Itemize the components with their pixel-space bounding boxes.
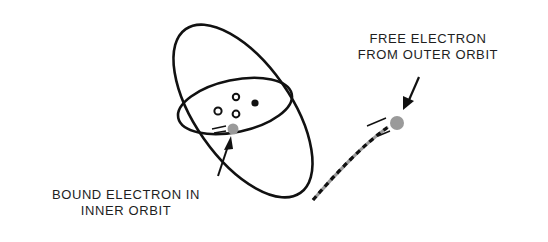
nucleus-particle	[251, 99, 258, 106]
bound-electron-label-line2: INNER ORBIT	[26, 203, 226, 219]
nucleus-particle	[214, 107, 221, 114]
free-electron-label: FREE ELECTRON FROM OUTER ORBIT	[338, 31, 518, 63]
free-electron-trajectory	[313, 127, 388, 200]
free-electron-label-line2: FROM OUTER ORBIT	[338, 47, 518, 63]
free-electron-arrow-icon	[403, 77, 419, 110]
nucleus	[214, 94, 258, 118]
free-electron-label-line1: FREE ELECTRON	[338, 31, 518, 47]
atom-diagram: FREE ELECTRON FROM OUTER ORBIT BOUND ELE…	[0, 0, 548, 242]
bound-electron-label-line1: BOUND ELECTRON IN	[26, 187, 226, 203]
nucleus-particle	[233, 94, 239, 100]
bound-electron-label: BOUND ELECTRON IN INNER ORBIT	[26, 187, 226, 219]
nucleus-particle	[233, 111, 240, 118]
free-electron	[367, 116, 404, 136]
